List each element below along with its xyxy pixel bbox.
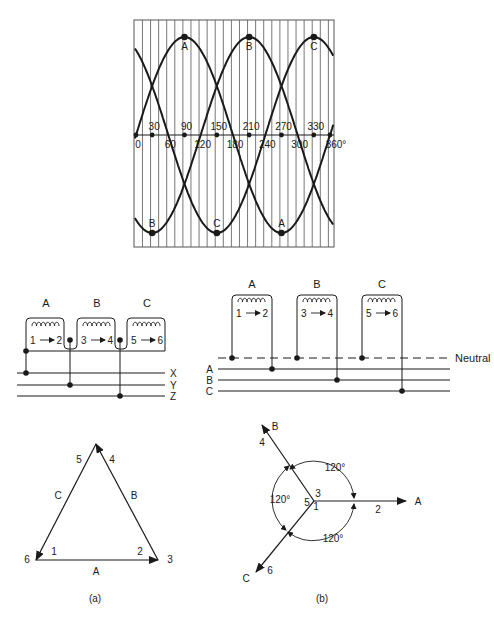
tick-label-top: 330 [307,121,324,132]
phasor-c-arrow [36,444,96,560]
coil-label: B [93,297,100,309]
terminal-label: 5 [131,335,137,346]
coil-label: B [313,278,320,290]
tick-label-top: 270 [275,121,292,132]
line-label: B [206,375,213,386]
trough-label: B [149,218,156,229]
wye-wiring-dots [229,355,405,394]
coil-label: C [378,278,386,290]
angle-label: 120° [323,533,344,544]
center-label: 3 [315,488,321,499]
coil-label: C [143,297,151,309]
vertex-label: 4 [109,454,115,465]
delta-coil-glyphs: A12B34C56XYZ [30,297,177,402]
tick-label-top: 90 [181,121,193,132]
line-label: X [170,368,177,379]
text-layer: 546123ABC(a)A2B4C6351120°120°120°(b) [24,421,421,604]
center-label: 5 [304,497,310,508]
coil-winding-icon [238,298,265,302]
terminal-label: 2 [375,504,381,515]
tick-label-bottom: 180 [227,139,244,150]
phasor-label: B [272,421,279,432]
line-label: A [206,364,213,375]
trough-dot [278,230,285,237]
terminal-label: 6 [157,335,163,346]
center-label: 1 [313,501,319,512]
peak-dot [181,34,188,41]
phasor-c-arrow [256,501,314,572]
line-label: Z [170,391,176,402]
tick-label-bottom: 0 [135,139,141,150]
terminal-label: 6 [267,565,273,576]
side-label: B [131,490,138,501]
terminal-label: 2 [262,308,268,319]
tick-label-bottom: 60 [165,139,177,150]
diagram-canvas: ABCBCA3090150210270330060120180240300360… [0,0,494,619]
peak-label: A [181,41,188,52]
vertex-label: 3 [167,554,173,565]
terminal-label: 4 [107,335,113,346]
delta-wiring-dots [23,337,123,399]
coil-winding-icon [83,322,110,326]
trough-dot [149,230,156,237]
terminal-label: 1 [30,335,36,346]
tick-label-bottom: 240 [259,139,276,150]
wye-coil-glyphs: A12B34C56NeutralABC [206,278,491,397]
caption: (a) [89,593,101,604]
phasor-b-arrow [262,425,314,501]
phasor-b-arrow [96,444,158,560]
line-label: C [206,386,213,397]
tick-label-bottom: 120 [194,139,211,150]
coil-winding-icon [368,298,395,302]
terminal-label: 4 [327,308,333,319]
phasor-label: A [415,496,422,507]
coil-label: A [248,278,256,290]
terminal-label: 4 [259,437,265,448]
tick-label-top: 210 [243,121,260,132]
tick-label-bottom: 300 [291,139,308,150]
tick-label-bottom: 360° [326,139,347,150]
side-label: C [54,490,61,501]
trough-dot [214,230,221,237]
neutral-label: Neutral [455,352,490,364]
three-phase-waveform: ABCBCA3090150210270330060120180240300360… [134,20,347,247]
wye-wiring-diagram [218,295,450,391]
angle-label: 120° [325,462,346,473]
vertex-label: 1 [51,546,57,557]
side-label: A [93,566,100,577]
peak-dot [246,34,253,41]
peak-label: C [310,41,317,52]
tick-label-top: 30 [149,121,161,132]
peak-dot [311,34,318,41]
terminal-label: 2 [56,335,62,346]
angle-label: 120° [270,494,291,505]
phasor-label: C [242,573,249,584]
coil-winding-icon [303,298,330,302]
vertex-label: 6 [24,554,30,565]
vertex-label: 5 [76,454,82,465]
coil-winding-icon [32,322,59,326]
trough-label: C [213,218,220,229]
delta-phasor-triangle [36,444,158,560]
delta-wiring-diagram [17,318,165,396]
line-label: Y [170,380,177,391]
trough-label: A [278,218,285,229]
terminal-label: 6 [392,308,398,319]
terminal-label: 5 [366,308,372,319]
terminal-label: 3 [81,335,87,346]
coil-label: A [42,297,50,309]
caption: (b) [316,593,328,604]
tick-label-top: 150 [210,121,227,132]
vertex-label: 2 [137,546,143,557]
coil-winding-icon [133,322,160,326]
peak-label: B [246,41,253,52]
terminal-label: 3 [301,308,307,319]
terminal-label: 1 [236,308,242,319]
